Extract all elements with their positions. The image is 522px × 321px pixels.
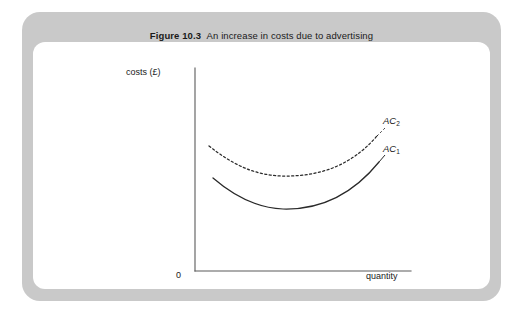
figure-screenshot: Figure 10.3 An increase in costs due to … <box>0 0 522 321</box>
ac2-label-text: AC <box>383 115 396 126</box>
ac1-label-subscript: 1 <box>396 148 400 155</box>
x-axis-label: quantity <box>366 271 398 281</box>
ac1-label-text: AC <box>383 143 396 154</box>
plot-panel: costs (£) quantity 0 AC2 AC1 <box>33 42 490 289</box>
figure-caption-text: An increase in costs due to advertising <box>207 30 374 41</box>
ac2-curve <box>209 136 377 176</box>
ac1-leader-line <box>379 155 385 162</box>
ac1-curve <box>213 162 379 209</box>
figure-frame: Figure 10.3 An increase in costs due to … <box>22 12 501 301</box>
figure-caption: Figure 10.3 An increase in costs due to … <box>22 30 501 41</box>
y-axis-label: costs (£) <box>126 67 161 77</box>
ac2-leader-line <box>377 128 385 136</box>
origin-label: 0 <box>176 270 181 280</box>
figure-caption-number: Figure 10.3 <box>150 30 201 41</box>
ac2-label-subscript: 2 <box>396 120 400 127</box>
ac2-curve-label: AC2 <box>383 115 400 126</box>
cost-curves-plot <box>33 42 490 289</box>
ac1-curve-label: AC1 <box>383 143 400 154</box>
